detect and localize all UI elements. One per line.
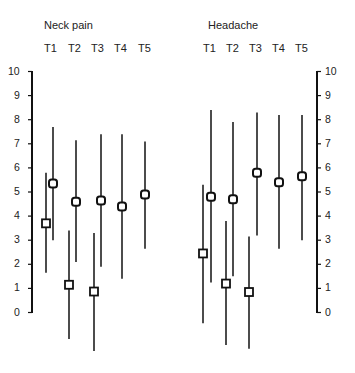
square-marker [199, 249, 207, 257]
circle-marker [253, 169, 261, 177]
circle-marker [49, 180, 57, 188]
square-marker [42, 219, 50, 227]
circle-marker [97, 196, 105, 204]
circle-marker [298, 172, 306, 180]
circle-marker [118, 202, 126, 210]
square-marker [222, 280, 230, 288]
square-marker [65, 281, 73, 289]
square-marker [90, 288, 98, 296]
error-bar-chart [0, 0, 355, 373]
circle-marker [207, 193, 215, 201]
circle-marker [72, 198, 80, 206]
circle-marker [141, 190, 149, 198]
square-marker [245, 288, 253, 296]
circle-marker [275, 178, 283, 186]
circle-marker [229, 195, 237, 203]
